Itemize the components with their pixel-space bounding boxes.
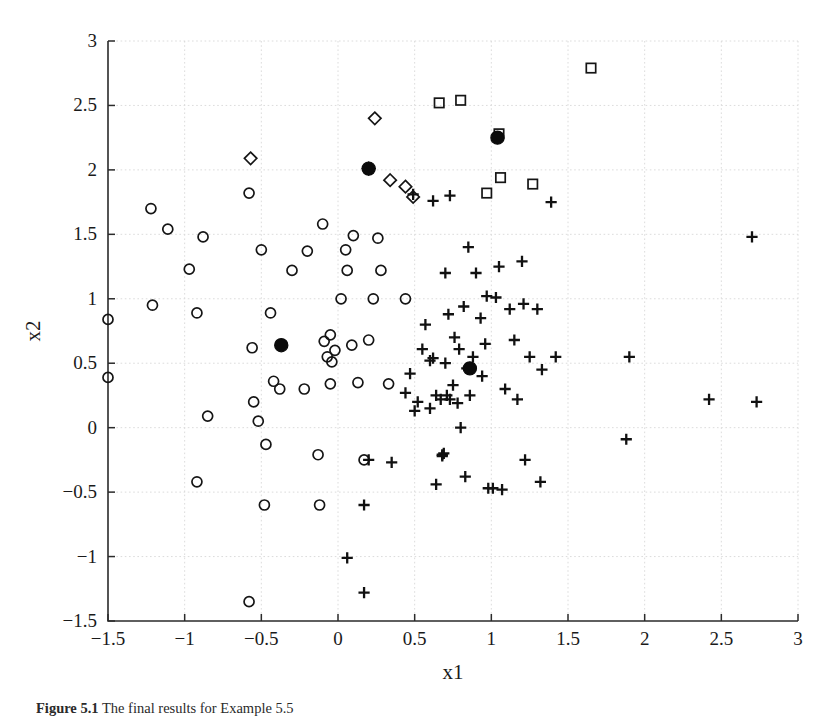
marker-diamond: [244, 152, 256, 164]
marker-circle: [348, 231, 358, 241]
marker-circle: [376, 265, 386, 275]
figure-caption-text: The final results for Example 5.5: [102, 700, 294, 716]
marker-plus: [431, 479, 442, 490]
marker-plus: [427, 195, 438, 206]
marker-plus: [460, 471, 471, 482]
marker-diamond: [384, 174, 396, 186]
marker-plus: [490, 292, 501, 303]
marker-plus: [420, 319, 431, 330]
marker-plus: [467, 351, 478, 362]
figure-caption-label: Figure 5.1: [36, 700, 99, 716]
x-tick-label: −1: [175, 628, 195, 649]
x-tick-label: 0.5: [403, 628, 427, 649]
data-markers-group: [103, 63, 762, 606]
marker-plus: [444, 190, 455, 201]
marker-circle: [347, 340, 357, 350]
marker-circle: [198, 232, 208, 242]
marker-circle: [400, 294, 410, 304]
marker-plus: [455, 422, 466, 433]
marker-plus: [443, 309, 454, 320]
marker-plus: [703, 394, 714, 405]
marker-centroid: [463, 362, 476, 375]
marker-circle: [249, 397, 259, 407]
gridlines-group: [108, 41, 798, 621]
marker-plus: [358, 587, 369, 598]
marker-circle: [319, 336, 329, 346]
marker-square: [496, 173, 505, 182]
marker-plus: [342, 552, 353, 563]
marker-circle: [275, 384, 285, 394]
x-tick-label: 1: [487, 628, 497, 649]
marker-plus: [550, 351, 561, 362]
marker-plus: [449, 332, 460, 343]
marker-plus: [536, 364, 547, 375]
marker-plus: [504, 303, 515, 314]
marker-square: [528, 179, 537, 188]
marker-circle: [341, 245, 351, 255]
marker-centroid: [491, 131, 504, 144]
marker-plus: [477, 371, 488, 382]
marker-plus: [624, 351, 635, 362]
marker-square: [456, 96, 465, 105]
marker-plus: [546, 197, 557, 208]
marker-circle: [244, 597, 254, 607]
marker-circle: [266, 308, 276, 318]
marker-circle: [163, 224, 173, 234]
marker-plus: [751, 396, 762, 407]
marker-circle: [302, 246, 312, 256]
marker-diamond: [369, 112, 381, 124]
marker-circle: [325, 330, 335, 340]
marker-plus: [493, 261, 504, 272]
y-tick-label: 1: [88, 288, 98, 309]
marker-circle: [353, 378, 363, 388]
y-axis-title: x2: [21, 321, 45, 342]
y-tick-label: 2.5: [73, 94, 97, 115]
figure-caption: Figure 5.1 The final results for Example…: [36, 700, 816, 716]
y-tick-label: 0.5: [73, 352, 97, 373]
marker-circle: [299, 384, 309, 394]
marker-plus: [404, 368, 415, 379]
marker-circle: [253, 416, 263, 426]
marker-circle: [261, 439, 271, 449]
marker-circle: [325, 379, 335, 389]
y-tick-label: 2: [88, 159, 98, 180]
marker-plus: [509, 334, 520, 345]
marker-plus: [518, 298, 529, 309]
x-tick-label: 1.5: [556, 628, 580, 649]
marker-circle: [342, 265, 352, 275]
marker-plus: [516, 256, 527, 267]
scatter-plot: −1.5−1−0.500.511.522.53−1.5−1−0.500.511.…: [0, 0, 832, 716]
marker-circle: [364, 335, 374, 345]
marker-plus: [496, 484, 507, 495]
marker-circle: [192, 477, 202, 487]
axis-frame-path: [108, 41, 798, 621]
marker-circle: [330, 345, 340, 355]
marker-plus: [440, 358, 451, 369]
marker-circle: [192, 308, 202, 318]
marker-circle: [244, 188, 254, 198]
marker-plus: [621, 434, 632, 445]
marker-plus: [519, 454, 530, 465]
marker-circle: [203, 411, 213, 421]
marker-circle: [147, 300, 157, 310]
marker-circle: [247, 343, 257, 353]
y-tick-label: −0.5: [63, 481, 97, 502]
marker-circle: [287, 265, 297, 275]
y-tick-label: 1.5: [73, 223, 97, 244]
marker-plus: [480, 338, 491, 349]
x-tick-label: 2: [640, 628, 650, 649]
x-tick-label: 3: [793, 628, 803, 649]
marker-circle: [259, 500, 269, 510]
marker-plus: [363, 454, 374, 465]
marker-circle: [318, 219, 328, 229]
figure-container: −1.5−1−0.500.511.522.53−1.5−1−0.500.511.…: [0, 0, 832, 716]
y-tick-label: −1.5: [63, 610, 97, 631]
marker-plus: [358, 499, 369, 510]
x-tick-label: 2.5: [709, 628, 733, 649]
marker-plus: [535, 476, 546, 487]
marker-square: [435, 98, 444, 107]
marker-circle: [384, 379, 394, 389]
marker-square: [482, 188, 491, 197]
marker-centroid: [362, 162, 375, 175]
marker-plus: [470, 267, 481, 278]
